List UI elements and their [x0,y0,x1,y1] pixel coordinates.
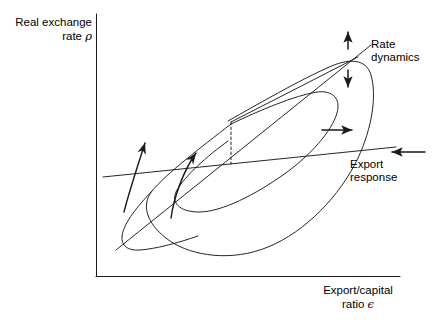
rate-dynamics-label-line2: dynamics [371,51,420,63]
export-response-label: Export response [350,158,422,184]
spiral-outer-loop [146,61,373,255]
rate-dynamics-nullcline [116,45,371,250]
rate-dynamics-label-line1: Rate [371,38,395,50]
y-axis-label-line2: rate [62,30,82,42]
export-response-label-line1: Export [350,158,383,170]
trajectory-arrow-inner-left [171,153,196,218]
y-axis-label-line1: Real exchange [15,16,92,28]
phase-diagram-figure: Real exchange rate ρ Export/capital rati… [0,0,433,323]
spiral-outer-tail [122,191,198,250]
y-axis-label: Real exchange rate ρ [14,16,92,43]
export-response-label-line2: response [350,171,397,183]
rate-dynamics-label: Rate dynamics [371,38,431,64]
x-axis-label-line2: ratio [342,298,364,310]
epsilon-symbol: ϵ [368,297,374,311]
x-axis-label-line1: Export/capital [323,284,393,296]
secondary-ray [231,57,358,122]
spiral-inner-loop [175,92,338,212]
rho-symbol: ρ [85,29,92,43]
x-axis-label: Export/capital ratio ϵ [306,284,410,311]
